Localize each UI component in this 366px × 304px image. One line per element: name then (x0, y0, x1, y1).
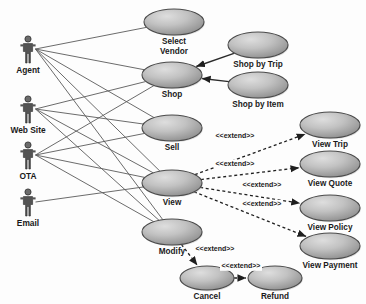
use-case-ellipse (228, 72, 288, 98)
use-case-ellipse (228, 32, 288, 58)
actor-label: Agent (16, 65, 40, 75)
extend-arrow-view-to-view_quote (201, 168, 299, 180)
stereotype-label-extend: <<extend>> (222, 262, 261, 269)
use-case-view_payment[interactable]: View Payment (300, 233, 361, 270)
use-case-label: Shop (162, 90, 182, 99)
uml-use-case-diagram: SelectVendorShopShop by TripShop by Item… (0, 0, 366, 304)
use-case-diagram-canvas: SelectVendorShopShop by TripShop by Item… (0, 0, 366, 304)
use-case-nodes-layer: SelectVendorShopShop by TripShop by Item… (142, 9, 361, 301)
use-case-ellipse (144, 9, 204, 35)
use-case-view_trip[interactable]: View Trip (300, 112, 361, 149)
use-case-label: Sell (165, 143, 180, 152)
association-agent-to-select_vendor (36, 27, 147, 49)
use-case-label: Shop by Item (232, 100, 283, 109)
stereotype-label-extend: <<extend>> (216, 160, 255, 167)
actor-ota[interactable]: OTA (19, 142, 36, 181)
association-website-to-view (36, 109, 154, 173)
use-case-ellipse (300, 112, 360, 138)
actor-email[interactable]: Email (17, 189, 39, 228)
stereotype-label-extend: <<extend>> (196, 245, 235, 252)
use-case-ellipse (142, 170, 202, 196)
use-case-view_policy[interactable]: View Policy (300, 195, 361, 232)
actor-label: Web Site (10, 125, 46, 135)
stereotype-label-extend: <<extend>> (243, 200, 282, 207)
use-case-refund[interactable]: Refund (248, 266, 303, 301)
use-case-shop_by_item[interactable]: Shop by Item (228, 72, 289, 109)
use-case-shop[interactable]: Shop (142, 62, 203, 99)
use-case-ellipse (300, 151, 360, 177)
use-case-label: View (163, 198, 182, 207)
extend-arrow-view-to-view_payment (194, 192, 306, 237)
stereotype-label-extend: <<extend>> (243, 181, 282, 188)
actor-agent[interactable]: Agent (16, 36, 40, 75)
use-case-label: Modify (159, 247, 186, 256)
use-case-ellipse (142, 115, 202, 141)
use-case-cancel[interactable]: Cancel (180, 266, 235, 301)
association-ota-to-shop (36, 85, 155, 155)
include-arrow-shop_by_trip-to-shop (196, 53, 234, 66)
association-website-to-shop (36, 81, 146, 109)
stereotype-label-extend: <<extend>> (216, 132, 255, 139)
use-case-sell[interactable]: Sell (142, 115, 203, 152)
actor-nodes-layer: AgentWeb SiteOTAEmail (10, 36, 46, 228)
association-email-to-view (36, 187, 144, 202)
use-case-ellipse (300, 233, 360, 259)
use-case-label: Cancel (194, 292, 221, 301)
use-case-label: Select (162, 37, 186, 46)
use-case-view[interactable]: View (142, 170, 203, 207)
actor-label: Email (17, 218, 39, 228)
use-case-label: Vendor (160, 47, 189, 56)
use-case-label: View Policy (308, 223, 353, 232)
use-case-label: Refund (261, 292, 289, 301)
use-case-ellipse (300, 195, 360, 221)
association-ota-to-sell (36, 133, 145, 155)
use-case-label: Shop by Trip (233, 60, 283, 69)
include-arrow-shop_by_item-to-shop (202, 78, 229, 81)
use-case-modify[interactable]: Modify (142, 219, 203, 256)
use-case-label: View Quote (308, 179, 353, 188)
stereotype-labels-layer: <<extend>><<extend>><<extend>><<extend>>… (194, 132, 283, 271)
use-case-select_vendor[interactable]: SelectVendor (144, 9, 205, 56)
use-case-ellipse (142, 62, 202, 88)
use-case-label: View Trip (312, 140, 348, 149)
actor-website[interactable]: Web Site (10, 96, 46, 135)
use-case-ellipse (142, 219, 202, 245)
actor-label: OTA (19, 171, 36, 181)
association-agent-to-shop (36, 49, 145, 70)
association-website-to-modify (36, 109, 159, 220)
use-case-label: View Payment (303, 261, 358, 270)
use-case-shop_by_trip[interactable]: Shop by Trip (228, 32, 289, 69)
use-case-view_quote[interactable]: View Quote (300, 151, 361, 188)
